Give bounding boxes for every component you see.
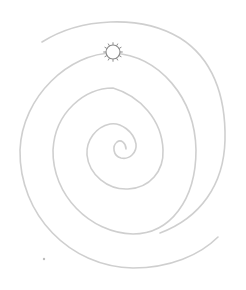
sun-ray [119, 56, 121, 57]
sun-ray [119, 47, 121, 48]
sun-ray [105, 56, 107, 57]
spiral-diagram [0, 0, 246, 290]
sun-ray [108, 58, 109, 60]
sun-icon [104, 43, 123, 62]
sun-ray [117, 44, 118, 46]
sun-ray [105, 47, 107, 48]
sun-ray [117, 58, 118, 60]
sun-ray [108, 44, 109, 46]
sun-body [106, 45, 120, 59]
spiral-path [20, 53, 218, 268]
speck-dot [43, 258, 45, 260]
